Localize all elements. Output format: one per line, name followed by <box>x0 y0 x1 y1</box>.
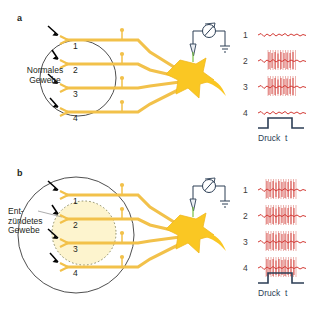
trace-label-3: 3 <box>243 237 248 247</box>
fiber-label-4: 4 <box>73 113 78 123</box>
recording-traces <box>258 179 306 277</box>
fiber-4 <box>67 88 182 112</box>
fiber-label-1: 1 <box>73 196 78 206</box>
receptor-3 <box>60 84 68 92</box>
fiber-label-2: 2 <box>73 220 78 230</box>
fiber-label-1: 1 <box>73 41 78 51</box>
trace-label-2: 2 <box>243 211 248 221</box>
trace-label-1: 1 <box>243 185 248 195</box>
panel-b: b <box>0 155 320 309</box>
stimulus-label: Druck t <box>258 133 287 143</box>
fiber-label-3: 3 <box>73 244 78 254</box>
fiber-1 <box>67 40 182 72</box>
trace-label-4: 4 <box>243 263 248 273</box>
fiber-label-2: 2 <box>73 65 78 75</box>
pressure-pulse <box>258 118 304 128</box>
receptor-1 <box>60 191 68 199</box>
receptor-1 <box>60 36 68 44</box>
amplifier-circuit <box>193 178 225 201</box>
recording-traces <box>258 34 306 115</box>
stimulus-label: Druck t <box>258 288 287 298</box>
trace-2 <box>258 60 306 63</box>
fiber-label-4: 4 <box>73 268 78 278</box>
amplifier-circuit <box>193 23 225 46</box>
neuron-axon <box>204 232 226 251</box>
trace-label-2: 2 <box>243 56 248 66</box>
normal-tissue-label: Normales Gewebe <box>12 66 78 85</box>
receptor-4 <box>60 263 68 271</box>
neuron-axon <box>204 77 226 96</box>
trace-4 <box>258 112 306 115</box>
panel-a: a <box>0 0 320 154</box>
ground-icon <box>220 201 230 207</box>
fiber-3 <box>67 82 180 88</box>
trace-1 <box>258 34 306 37</box>
fiber-2 <box>67 64 180 77</box>
afferent-fibers <box>67 40 182 112</box>
ground-icon <box>220 46 230 52</box>
inflamed-tissue-label: Ent- zündetes Gewebe <box>8 207 66 236</box>
trace-label-3: 3 <box>243 82 248 92</box>
fiber-label-3: 3 <box>73 89 78 99</box>
trace-label-4: 4 <box>243 108 248 118</box>
trace-label-1: 1 <box>243 30 248 40</box>
trace-3 <box>258 86 306 89</box>
